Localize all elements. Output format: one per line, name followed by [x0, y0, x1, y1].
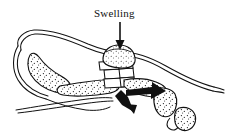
swelling-label: Swelling — [94, 8, 135, 19]
anatomical-figure: Swelling — [0, 0, 227, 136]
swelling-mass — [103, 45, 135, 68]
anatomy-illustration-svg — [0, 0, 227, 136]
